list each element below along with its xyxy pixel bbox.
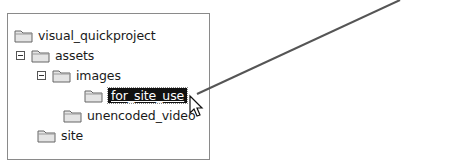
tree-node-label: site: [61, 128, 83, 143]
folder-icon: [84, 88, 103, 103]
collapse-toggle-icon[interactable]: [37, 71, 46, 80]
tree-node-label: unencoded_video: [87, 108, 195, 123]
folder-tree-panel: visual_quickproject assets images for_si…: [7, 13, 210, 160]
callout-line: [197, 0, 400, 94]
tree-node-label: visual_quickproject: [38, 28, 156, 43]
tree-node-label: images: [76, 68, 121, 83]
folder-icon: [52, 68, 71, 83]
tree-node-site[interactable]: site: [37, 125, 83, 145]
tree-node-label: assets: [55, 48, 94, 63]
tree-node-unencoded-video[interactable]: unencoded_video: [63, 105, 195, 125]
folder-icon: [14, 28, 33, 43]
folder-icon: [31, 48, 50, 63]
tree-node-visual-quickproject[interactable]: visual_quickproject: [14, 25, 156, 45]
tree-node-label-selected[interactable]: for_site_use: [108, 88, 187, 103]
collapse-toggle-icon[interactable]: [16, 51, 25, 60]
folder-icon: [37, 128, 56, 143]
tree-node-assets[interactable]: assets: [16, 45, 94, 65]
folder-icon: [63, 108, 82, 123]
tree-node-for-site-use[interactable]: for_site_use: [84, 85, 187, 105]
tree-node-images[interactable]: images: [37, 65, 121, 85]
